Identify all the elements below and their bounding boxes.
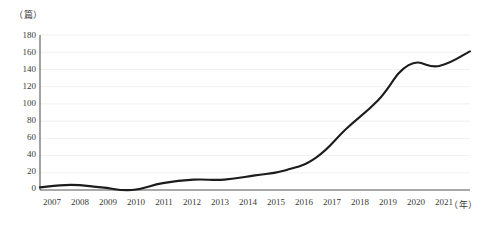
plot-area bbox=[0, 0, 495, 228]
gridlines-group bbox=[40, 35, 470, 173]
chart-container: （篇） （年） 180 160 140 120 100 80 60 40 20 … bbox=[0, 0, 495, 228]
